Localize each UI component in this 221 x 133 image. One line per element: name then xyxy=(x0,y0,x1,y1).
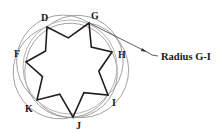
label-point-k: K xyxy=(25,104,33,114)
arrowhead-icon xyxy=(141,48,147,52)
label-point-g: G xyxy=(91,11,99,21)
diagram-canvas xyxy=(0,0,221,133)
construction-arc xyxy=(25,62,108,117)
construction-arc xyxy=(73,23,129,118)
callout-radius-g-i: Radius G-I xyxy=(161,52,211,63)
label-point-i: I xyxy=(112,98,116,108)
star-construction-diagram: D G H I J K F Radius G-I xyxy=(0,0,221,133)
construction-arc xyxy=(26,23,112,62)
label-point-d: D xyxy=(41,13,48,23)
construction-arc xyxy=(47,15,123,95)
label-point-j: J xyxy=(76,121,81,131)
label-point-f: F xyxy=(14,49,20,59)
label-point-h: H xyxy=(118,50,126,60)
